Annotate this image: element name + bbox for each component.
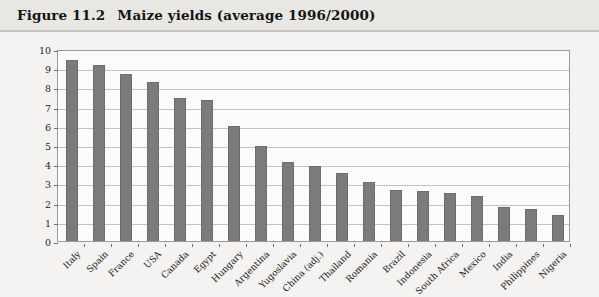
bar xyxy=(120,74,132,241)
y-axis-tick-label: 2 xyxy=(29,198,51,209)
y-axis-tick-label: 0 xyxy=(29,237,51,248)
x-axis-tick-label: USA xyxy=(142,249,163,270)
x-axis-tick-label: Nigeria xyxy=(537,249,568,280)
y-axis-tick-label: 10 xyxy=(29,45,51,56)
x-axis-tick-mark xyxy=(543,244,544,247)
y-axis-tick-label: 1 xyxy=(29,217,51,228)
bar-series xyxy=(58,51,569,241)
bar xyxy=(309,166,321,241)
x-axis-tick-mark xyxy=(570,244,571,247)
bar xyxy=(471,196,483,241)
bar xyxy=(93,65,105,241)
bar xyxy=(201,100,213,241)
x-axis-tick-mark xyxy=(300,244,301,247)
x-axis-tick-mark xyxy=(246,244,247,247)
x-axis-tick-label: Italy xyxy=(61,249,83,271)
x-axis-tick-mark xyxy=(138,244,139,247)
bar xyxy=(525,209,537,241)
y-axis-tick-labels: 012345678910 xyxy=(27,50,51,242)
y-axis-tick-label: 4 xyxy=(29,160,51,171)
header-divider xyxy=(0,30,599,32)
x-axis-tick-mark xyxy=(165,244,166,247)
bar xyxy=(390,190,402,241)
x-axis-tick-mark xyxy=(219,244,220,247)
bar xyxy=(552,215,564,241)
bar xyxy=(282,162,294,241)
x-axis-tick-mark xyxy=(381,244,382,247)
plot-area xyxy=(57,50,570,242)
x-axis-tick-label: India xyxy=(491,249,515,273)
bar xyxy=(498,207,510,241)
figure-number: Figure 11.2 xyxy=(17,7,105,23)
x-axis-tick-label: Mexico xyxy=(457,249,487,279)
y-axis-tick-label: 6 xyxy=(29,121,51,132)
bar xyxy=(363,182,375,241)
bar xyxy=(66,60,78,241)
x-axis-tick-mark xyxy=(273,244,274,247)
bar xyxy=(444,193,456,241)
x-axis-tick-mark xyxy=(462,244,463,247)
figure-caption: Maize yields (average 1996/2000) xyxy=(117,7,375,23)
x-axis-tick-mark xyxy=(489,244,490,247)
y-axis-tick-label: 3 xyxy=(29,179,51,190)
bar xyxy=(174,98,186,241)
bar xyxy=(255,146,267,241)
y-axis-tick-label: 8 xyxy=(29,83,51,94)
x-axis-tick-label: Canada xyxy=(159,249,190,280)
bar xyxy=(147,82,159,241)
x-axis-labels: ItalySpainFranceUSACanadaEgyptHungaryArg… xyxy=(57,244,570,297)
bar xyxy=(228,126,240,241)
x-axis-tick-mark xyxy=(435,244,436,247)
x-axis-tick-mark xyxy=(408,244,409,247)
x-axis-tick-mark xyxy=(516,244,517,247)
x-axis-tick-label: Egypt xyxy=(192,249,218,275)
bar xyxy=(336,173,348,241)
y-axis-tick-label: 5 xyxy=(29,141,51,152)
y-axis-tick-label: 9 xyxy=(29,64,51,75)
x-axis-tick-mark xyxy=(111,244,112,247)
x-axis-tick-mark xyxy=(84,244,85,247)
page-title: Figure 11.2Maize yields (average 1996/20… xyxy=(17,7,375,23)
x-axis-tick-mark xyxy=(327,244,328,247)
x-axis-tick-label: France xyxy=(107,249,137,279)
y-axis-tick-label: 7 xyxy=(29,102,51,113)
bar xyxy=(417,191,429,241)
x-axis-tick-mark xyxy=(192,244,193,247)
figure-page: Figure 11.2Maize yields (average 1996/20… xyxy=(0,0,599,297)
x-axis-tick-mark xyxy=(354,244,355,247)
